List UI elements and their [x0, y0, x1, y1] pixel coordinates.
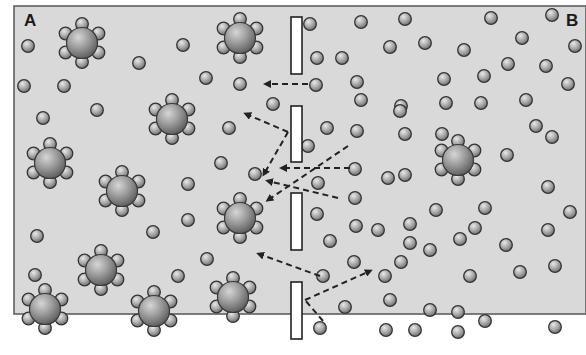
- water-molecule: [430, 204, 443, 217]
- water-molecule: [404, 218, 417, 231]
- water-molecule: [91, 104, 104, 117]
- water-molecule: [314, 322, 327, 335]
- water-molecule: [201, 253, 214, 266]
- water-molecule: [540, 60, 553, 73]
- water-molecule: [31, 230, 44, 243]
- solute-molecule: [67, 28, 98, 59]
- water-molecule: [458, 44, 471, 57]
- water-molecule: [464, 270, 477, 283]
- water-molecule: [349, 192, 362, 205]
- water-molecule: [546, 9, 559, 22]
- water-molecule: [440, 97, 453, 110]
- water-molecule: [475, 97, 488, 110]
- water-molecule: [182, 214, 195, 227]
- water-molecule: [223, 122, 236, 135]
- solute-molecule: [225, 23, 256, 54]
- water-molecule: [37, 112, 50, 125]
- water-molecule: [379, 270, 392, 283]
- water-molecule: [409, 324, 422, 337]
- water-molecule: [452, 306, 465, 319]
- water-molecule: [304, 18, 317, 31]
- water-molecule: [549, 321, 562, 334]
- water-molecule: [215, 157, 228, 170]
- water-molecule: [516, 32, 529, 45]
- water-molecule: [355, 16, 368, 29]
- water-molecule: [336, 52, 349, 65]
- water-molecule: [501, 149, 514, 162]
- water-molecule: [384, 41, 397, 54]
- water-molecule: [310, 79, 323, 92]
- water-molecule: [424, 244, 437, 257]
- water-molecule: [452, 326, 465, 339]
- solute-molecule: [30, 294, 61, 325]
- water-molecule: [438, 73, 451, 86]
- water-molecule: [500, 239, 513, 252]
- water-molecule: [349, 163, 362, 176]
- water-molecule: [542, 224, 555, 237]
- water-molecule: [200, 72, 213, 85]
- water-molecule: [382, 172, 395, 185]
- water-molecule: [177, 39, 190, 52]
- water-molecule: [502, 58, 515, 71]
- water-molecule: [564, 206, 577, 219]
- water-molecule: [324, 235, 337, 248]
- water-molecule: [399, 128, 412, 141]
- water-molecule: [147, 226, 160, 239]
- water-molecule: [394, 105, 407, 118]
- water-molecule: [182, 178, 195, 191]
- water-molecule: [351, 76, 364, 89]
- membrane-segment: [291, 106, 302, 162]
- membrane-segment: [291, 193, 302, 250]
- solute-molecule: [157, 104, 188, 135]
- water-molecule: [419, 37, 432, 50]
- water-molecule: [469, 222, 482, 235]
- water-molecule: [399, 169, 412, 182]
- water-molecule: [172, 270, 185, 283]
- water-molecule: [58, 80, 71, 93]
- water-molecule: [351, 125, 364, 138]
- water-molecule: [479, 315, 492, 328]
- water-molecule: [339, 301, 352, 314]
- water-molecule: [321, 122, 334, 135]
- water-molecule: [399, 13, 412, 26]
- membrane-segment: [291, 17, 302, 74]
- water-molecule: [424, 304, 437, 317]
- water-molecule: [479, 202, 492, 215]
- water-molecule: [355, 94, 368, 107]
- water-molecule: [312, 177, 325, 190]
- water-molecule: [348, 256, 361, 269]
- water-molecule: [380, 324, 393, 337]
- water-molecule: [18, 80, 31, 93]
- water-molecule: [569, 40, 582, 53]
- water-molecule: [267, 98, 280, 111]
- water-molecule: [384, 294, 397, 307]
- water-molecule: [133, 57, 146, 70]
- water-molecule: [485, 12, 498, 25]
- solute-molecule: [139, 296, 170, 327]
- water-molecule: [395, 256, 408, 269]
- water-molecule: [350, 220, 363, 233]
- solute-molecule: [225, 203, 256, 234]
- water-molecule: [29, 269, 42, 282]
- water-molecule: [549, 260, 562, 273]
- solute-molecule: [35, 148, 66, 179]
- water-molecule: [546, 131, 559, 144]
- water-molecule: [22, 40, 35, 53]
- label-side-a: A: [24, 11, 36, 30]
- water-molecule: [234, 78, 247, 91]
- water-molecule: [562, 78, 575, 91]
- water-molecule: [311, 208, 324, 221]
- solute-molecule: [86, 255, 117, 286]
- water-molecule: [454, 233, 467, 246]
- solute-molecule: [443, 145, 474, 176]
- water-molecule: [404, 237, 417, 250]
- membrane-segment: [291, 282, 302, 339]
- water-molecule: [478, 70, 491, 83]
- water-molecule: [302, 140, 315, 153]
- osmosis-diagram: A B: [0, 0, 586, 355]
- label-side-b: B: [566, 11, 578, 30]
- water-molecule: [311, 52, 324, 65]
- solute-molecule: [107, 176, 138, 207]
- water-molecule: [530, 120, 543, 133]
- water-molecule: [514, 266, 527, 279]
